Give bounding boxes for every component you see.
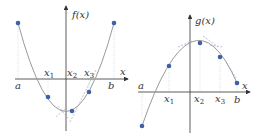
f-label-x2: x2 [67, 67, 77, 80]
g-ylabel: g(x) [195, 15, 215, 26]
g-point [235, 81, 240, 86]
f-point [16, 21, 21, 26]
f-point [87, 90, 92, 95]
f-panel: f(x) x a b x1 x2 x3 [15, 6, 128, 131]
g-label-x3: x3 [215, 93, 225, 106]
g-label-b: b [234, 94, 240, 105]
g-label-a: a [138, 80, 144, 91]
g-label-x1: x1 [164, 93, 174, 106]
f-label-x3: x3 [84, 67, 94, 80]
figure: f(x) x a b x1 x2 x3 g(x) x a b x1 x2 x3 [0, 0, 259, 135]
f-point [70, 109, 75, 114]
f-label-b: b [108, 80, 114, 91]
f-label-x1: x1 [44, 67, 54, 80]
f-point [112, 21, 117, 26]
f-xlabel: x [120, 66, 126, 77]
f-tangent-2 [58, 106, 68, 118]
g-curve [142, 40, 237, 126]
g-point [140, 124, 145, 129]
f-point [46, 95, 51, 100]
g-point [198, 41, 203, 46]
g-point [218, 55, 223, 60]
f-ylabel: f(x) [71, 9, 89, 20]
f-label-a: a [15, 80, 21, 91]
g-label-x2: x2 [194, 93, 204, 106]
g-tangent-3 [210, 45, 223, 47]
g-panel: g(x) x a b x1 x2 x3 [138, 15, 250, 133]
g-point [167, 64, 172, 69]
g-xlabel: x [242, 80, 248, 91]
